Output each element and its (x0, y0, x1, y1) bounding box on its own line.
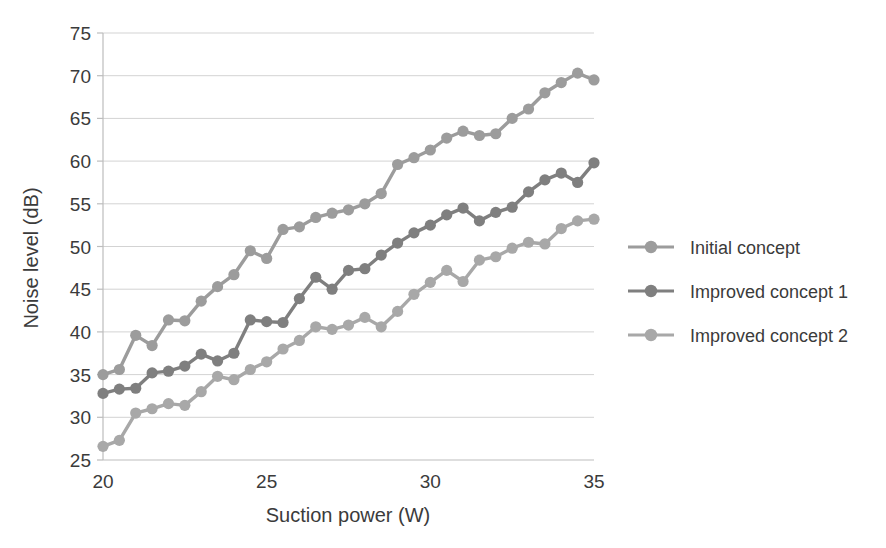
series-2-point-26 (523, 186, 534, 197)
series-3-point-16 (359, 312, 370, 323)
series-2-point-19 (408, 227, 419, 238)
series-2-point-27 (539, 174, 550, 185)
y-tick-label-40: 40 (70, 322, 91, 343)
series-3-point-30 (588, 214, 599, 225)
series-2-point-15 (343, 265, 354, 276)
y-tick-label-55: 55 (70, 194, 91, 215)
series-1-point-6 (196, 296, 207, 307)
series-2-point-21 (441, 209, 452, 220)
series-3-point-22 (457, 276, 468, 287)
legend-item-2[interactable]: Improved concept 1 (628, 282, 848, 302)
series-2-point-28 (556, 167, 567, 178)
series-group (97, 68, 599, 452)
series-1-point-4 (163, 314, 174, 325)
series-1-point-17 (376, 188, 387, 199)
series-2-point-17 (376, 249, 387, 260)
series-3-point-4 (163, 398, 174, 409)
series-1-point-25 (507, 113, 518, 124)
series-3-point-17 (376, 321, 387, 332)
series-3-point-1 (114, 435, 125, 446)
y-tick-label-25: 25 (70, 450, 91, 471)
series-3-point-2 (130, 407, 141, 418)
legend-label-2: Improved concept 1 (690, 282, 848, 302)
series-1 (97, 68, 599, 381)
series-2-point-6 (196, 349, 207, 360)
series-3-point-5 (179, 400, 190, 411)
series-3-point-24 (490, 251, 501, 262)
series-1-point-16 (359, 198, 370, 209)
series-3-point-8 (228, 374, 239, 385)
series-3-point-7 (212, 371, 223, 382)
y-tick-label-75: 75 (70, 23, 91, 44)
series-1-point-11 (277, 224, 288, 235)
x-tick-label-25: 25 (256, 471, 277, 492)
series-2-point-20 (425, 220, 436, 231)
series-line-2 (103, 163, 594, 394)
legend-group: Initial conceptImproved concept 1Improve… (628, 238, 848, 346)
legend-swatch-marker-3 (645, 329, 657, 341)
series-line-3 (103, 219, 594, 446)
series-3-point-23 (474, 255, 485, 266)
series-2-point-23 (474, 215, 485, 226)
series-1-point-23 (474, 130, 485, 141)
y-tick-label-30: 30 (70, 407, 91, 428)
series-1-point-14 (327, 208, 338, 219)
series-3-point-9 (245, 364, 256, 375)
y-tick-label-70: 70 (70, 66, 91, 87)
series-1-point-1 (114, 364, 125, 375)
series-3-point-18 (392, 306, 403, 317)
series-2-point-30 (588, 157, 599, 168)
series-1-point-12 (294, 221, 305, 232)
gridlines-group (103, 33, 594, 417)
x-tick-label-20: 20 (92, 471, 113, 492)
x-tick-labels-group: 20253035 (92, 471, 604, 492)
series-1-point-20 (425, 144, 436, 155)
series-2 (97, 157, 599, 399)
series-3-point-10 (261, 356, 272, 367)
series-1-point-5 (179, 315, 190, 326)
series-1-point-27 (539, 87, 550, 98)
series-2-point-12 (294, 293, 305, 304)
series-2-point-16 (359, 263, 370, 274)
series-1-point-18 (392, 159, 403, 170)
series-3-point-11 (277, 343, 288, 354)
series-1-point-24 (490, 128, 501, 139)
series-3 (97, 214, 599, 452)
y-tick-label-65: 65 (70, 108, 91, 129)
series-3-point-3 (147, 403, 158, 414)
legend-item-1[interactable]: Initial concept (628, 238, 800, 258)
series-2-point-29 (572, 177, 583, 188)
chart-figure: 2530354045505560657075 20253035 Initial … (0, 0, 886, 548)
series-3-point-14 (327, 324, 338, 335)
series-3-point-12 (294, 335, 305, 346)
series-2-point-2 (130, 383, 141, 394)
y-tick-label-45: 45 (70, 279, 91, 300)
series-3-point-21 (441, 265, 452, 276)
series-1-point-8 (228, 269, 239, 280)
series-3-point-28 (556, 223, 567, 234)
series-3-point-13 (310, 321, 321, 332)
series-3-point-0 (97, 441, 108, 452)
legend-label-1: Initial concept (690, 238, 800, 258)
series-2-point-9 (245, 314, 256, 325)
series-1-point-29 (572, 68, 583, 79)
series-2-point-22 (457, 202, 468, 213)
series-2-point-18 (392, 237, 403, 248)
series-1-point-30 (588, 74, 599, 85)
series-2-point-14 (327, 284, 338, 295)
series-1-point-13 (310, 212, 321, 223)
y-tick-label-60: 60 (70, 151, 91, 172)
series-2-point-25 (507, 202, 518, 213)
series-3-point-25 (507, 243, 518, 254)
series-1-point-7 (212, 281, 223, 292)
legend-item-3[interactable]: Improved concept 2 (628, 326, 848, 346)
y-tick-labels-group: 2530354045505560657075 (70, 23, 91, 471)
series-2-point-3 (147, 367, 158, 378)
series-2-point-0 (97, 388, 108, 399)
series-2-point-8 (228, 348, 239, 359)
legend-label-3: Improved concept 2 (690, 326, 848, 346)
x-tick-label-35: 35 (583, 471, 604, 492)
series-1-point-21 (441, 132, 452, 143)
line-chart-canvas: 2530354045505560657075 20253035 Initial … (0, 0, 886, 548)
series-2-point-24 (490, 207, 501, 218)
